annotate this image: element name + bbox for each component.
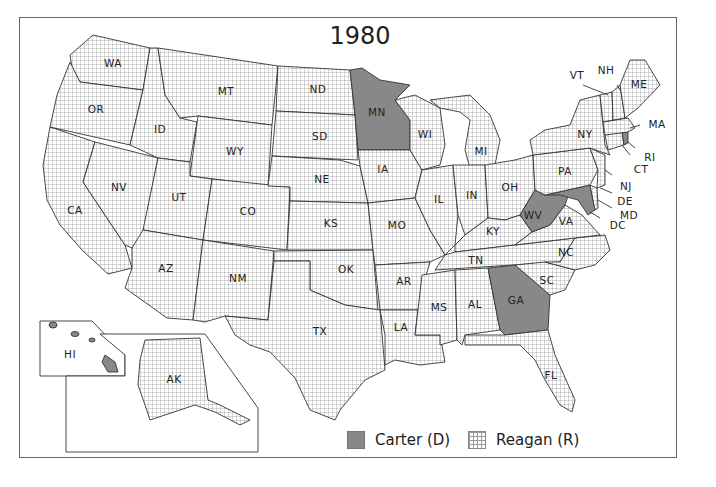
label-TX: TX [312,325,328,337]
label-PA: PA [558,165,572,177]
label-FL: FL [545,369,558,381]
label-OR: OR [88,103,105,115]
label-MT: MT [218,85,235,97]
label-NE: NE [314,173,330,185]
label-CO: CO [240,205,257,217]
label-WY: WY [226,145,244,157]
label-VT: VT [570,69,585,81]
label-AL: AL [468,298,482,310]
legend-carter: Carter (D) [347,431,450,449]
label-CT: CT [634,163,649,175]
us-election-map: WA OR CA NV ID MT WY UT CO AZ NM ND SD N… [0,0,716,487]
state-IA [358,150,422,203]
label-AR: AR [396,275,411,287]
label-SD: SD [312,130,328,142]
carter-swatch-icon [347,431,365,449]
label-NJ: NJ [620,180,632,192]
label-NM: NM [229,272,247,284]
state-FL [465,330,575,412]
legend-carter-label: Carter (D) [375,431,450,449]
label-DC: DC [610,219,626,231]
label-OH: OH [501,181,518,193]
label-MI: MI [474,145,487,157]
label-VA: VA [559,215,574,227]
label-ME: ME [631,78,648,90]
label-AK: AK [166,373,182,385]
label-WA: WA [104,57,122,69]
label-NH: NH [598,64,615,76]
label-MS: MS [431,301,448,313]
label-MN: MN [368,106,386,118]
label-WI: WI [418,128,432,140]
label-DE: DE [617,195,633,207]
label-MA: MA [648,118,666,130]
reagan-swatch-icon [468,431,486,449]
map-title: 1980 [300,22,420,50]
label-MO: MO [388,219,406,231]
label-NV: NV [111,181,127,193]
label-SC: SC [540,274,555,286]
label-WV: WV [524,209,543,221]
label-ND: ND [310,83,327,95]
label-AZ: AZ [158,262,173,274]
state-AZ [125,230,203,320]
label-NY: NY [577,128,592,140]
label-IN: IN [466,189,478,201]
legend-reagan: Reagan (R) [468,431,579,449]
label-TN: TN [467,254,483,266]
state-NY [530,95,610,155]
label-GA: GA [508,294,525,306]
label-IA: IA [377,163,389,175]
label-UT: UT [171,191,186,203]
label-NC: NC [558,246,574,258]
label-OK: OK [338,263,355,275]
label-KY: KY [486,225,500,237]
label-CA: CA [67,204,83,216]
label-HI: HI [64,348,76,360]
legend-reagan-label: Reagan (R) [496,431,579,449]
label-KS: KS [324,217,339,229]
label-IL: IL [434,193,444,205]
label-ID: ID [154,123,166,135]
label-RI: RI [644,151,655,163]
label-LA: LA [394,321,409,333]
